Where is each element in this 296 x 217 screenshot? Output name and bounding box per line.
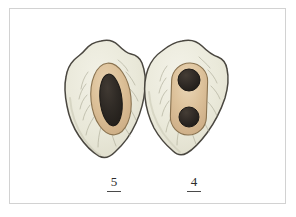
tooth-label-5: 5 xyxy=(94,174,134,192)
tooth-label-5-text: 5 xyxy=(107,174,122,192)
tooth-4-pulp-canal-buccal xyxy=(178,69,200,91)
tooth-cross-section-5 xyxy=(65,40,145,157)
tooth-label-4-text: 4 xyxy=(187,174,202,192)
tooth-label-4: 4 xyxy=(174,174,214,192)
tooth-labels-row: 5 4 xyxy=(9,174,286,200)
tooth-4-pulp-canal-lingual xyxy=(179,107,199,127)
tooth-cross-section-4 xyxy=(145,40,228,155)
figure-root: 5 4 xyxy=(0,0,296,217)
